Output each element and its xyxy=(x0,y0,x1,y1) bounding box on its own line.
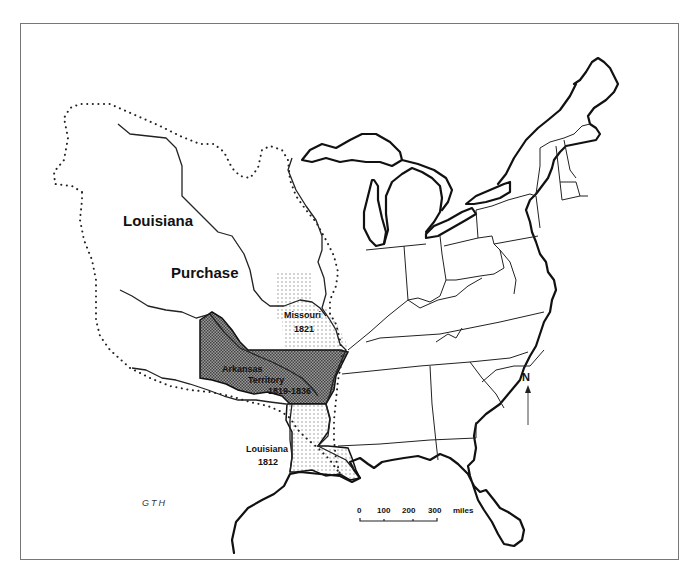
scale-tick-300: 300 xyxy=(428,506,442,515)
louisiana-1812-label: Louisiana xyxy=(246,444,289,454)
lake-superior xyxy=(302,134,402,166)
scale-tick-0: 0 xyxy=(357,506,362,515)
missouri-label: Missouri xyxy=(284,310,321,320)
michigan-lower-peninsula xyxy=(384,168,442,244)
st-lawrence-river xyxy=(498,84,576,184)
arkansas-territory-label: Territory xyxy=(248,375,284,385)
north-arrow-icon: N xyxy=(522,371,531,425)
scale-unit: miles xyxy=(453,506,474,515)
louisiana-purchase-label-line2: Purchase xyxy=(171,264,239,281)
scale-tick-200: 200 xyxy=(402,506,416,515)
lake-huron xyxy=(402,160,452,210)
lake-michigan xyxy=(364,180,386,246)
louisiana-1812-region xyxy=(286,404,360,480)
arkansas-label: Arkansas xyxy=(222,364,263,374)
scale-tick-100: 100 xyxy=(377,506,391,515)
lake-ontario xyxy=(466,182,510,204)
scale-bar: 0 100 200 300 miles xyxy=(357,506,474,521)
author-credit: GTH xyxy=(142,498,167,508)
missouri-year: 1821 xyxy=(294,324,314,334)
state-boundaries xyxy=(338,124,590,460)
louisiana-1812-year: 1812 xyxy=(258,457,278,467)
louisiana-purchase-label-line1: Louisiana xyxy=(123,212,194,229)
map-canvas: Louisiana Purchase Missouri 1821 Arkansa… xyxy=(0,0,693,579)
north-label: N xyxy=(522,371,530,383)
arkansas-year: 1819-1836 xyxy=(268,386,311,396)
